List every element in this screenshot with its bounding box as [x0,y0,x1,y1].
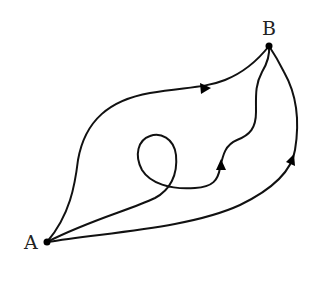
path-diagram: A B [0,0,321,281]
point-b-dot [266,43,273,50]
path-upper [47,46,269,242]
point-a-dot [44,239,51,246]
point-a-label: A [23,231,38,253]
arrow-loop [216,159,226,170]
point-b-label: B [262,17,276,39]
